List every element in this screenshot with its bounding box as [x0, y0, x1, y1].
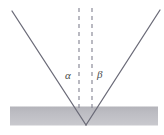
angle-label-alpha: α — [65, 70, 71, 81]
optics-ray-diagram: α β — [0, 0, 164, 135]
diagram-canvas — [0, 0, 164, 135]
angle-label-beta: β — [97, 69, 102, 80]
